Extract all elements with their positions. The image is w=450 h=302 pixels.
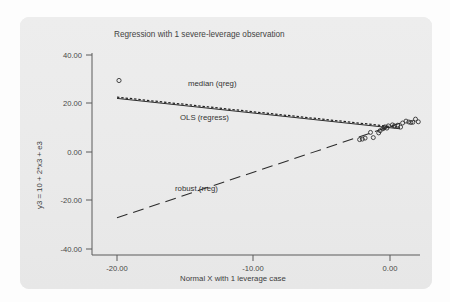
screenshot-root: Regression with 1 severe-leverage observ…	[0, 0, 450, 302]
x-axis-label: Normal X with 1 leverage case	[180, 274, 286, 283]
x-tick-label-neg10: -10.00	[228, 264, 278, 273]
robust-rreg-label: robust (rreg)	[175, 184, 218, 193]
y-tick-marks	[86, 55, 92, 249]
y-tick-label-20: 20.00	[46, 99, 82, 108]
y-tick-label-neg40: -40.00	[46, 245, 82, 254]
y-tick-label-40: 40.00	[46, 51, 82, 60]
x-tick-marks	[117, 255, 390, 261]
leverage-outlier-point	[117, 78, 121, 82]
y-tick-label-0: 0.00	[46, 148, 82, 157]
figure-card: Regression with 1 severe-leverage observ…	[20, 17, 432, 289]
x-tick-label-neg20: -20.00	[92, 264, 142, 273]
ols-regress-line	[117, 98, 400, 128]
y-axis-label: y3 = 10 + 2*x3 + e3	[35, 141, 44, 209]
chart-title: Regression with 1 severe-leverage observ…	[114, 30, 285, 39]
median-qreg-label: median (qreg)	[188, 79, 237, 88]
ols-regress-label: OLS (regress)	[180, 113, 229, 122]
y-tick-label-neg20: -20.00	[46, 196, 82, 205]
x-tick-label-0: 0.00	[365, 264, 415, 273]
median-qreg-line	[117, 97, 400, 127]
scatter-points	[117, 78, 420, 141]
robust-rreg-line	[117, 123, 400, 218]
